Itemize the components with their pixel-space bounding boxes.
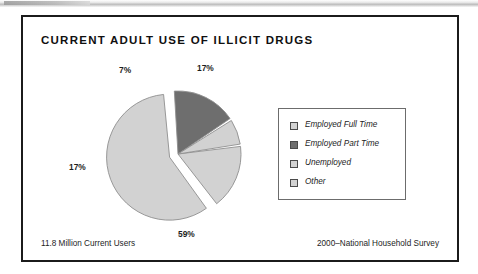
legend-item-label: Other	[305, 178, 325, 186]
page-title: CURRENT ADULT USE OF ILLICIT DRUGS	[41, 34, 314, 46]
legend-swatch-icon	[290, 122, 298, 130]
legend-swatch-icon	[290, 141, 298, 149]
legend-swatch-icon	[290, 160, 298, 168]
pie-slice-label: 17%	[197, 63, 214, 73]
legend-item-other[interactable]: Other	[290, 175, 395, 190]
legend-item-employed-part-time[interactable]: Employed Part Time	[290, 137, 395, 152]
figure-frame: CURRENT ADULT USE OF ILLICIT DRUGS 17%59…	[21, 15, 459, 262]
footnote-total-users: 11.8 Million Current Users	[41, 239, 135, 248]
pie-slice-label: 17%	[69, 162, 86, 172]
legend-item-label: Unemployed	[305, 159, 351, 167]
legend-item-unemployed[interactable]: Unemployed	[290, 156, 395, 171]
legend-item-label: Employed Full Time	[305, 121, 377, 129]
legend-item-employed-full-time[interactable]: Employed Full Time	[290, 118, 395, 133]
pie-chart-svg: 17%59%17%7%	[59, 57, 279, 242]
legend-item-label: Employed Part Time	[305, 140, 379, 148]
pie-slice-label: 59%	[178, 229, 195, 239]
pie-chart: 17%59%17%7%	[59, 57, 279, 242]
pie-slice-label: 7%	[119, 65, 132, 75]
footnote-source: 2000–National Household Survey	[317, 239, 439, 248]
chart-legend: Employed Full Time Employed Part Time Un…	[278, 108, 406, 200]
scan-artifact-strip	[0, 0, 478, 7]
pie-slice-group	[107, 91, 241, 220]
legend-swatch-icon	[290, 179, 298, 187]
